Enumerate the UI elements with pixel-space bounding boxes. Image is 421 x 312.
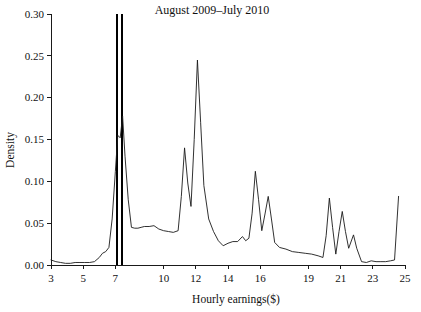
x-axis-tick-label: 23 — [367, 272, 379, 284]
y-axis-tick-label: 0.20 — [25, 91, 45, 103]
reference-lines — [117, 14, 122, 265]
chart-canvas: August 2009–July 2010 0.000.050.100.150.… — [0, 0, 421, 312]
chart-title: August 2009–July 2010 — [155, 3, 270, 17]
x-axis-tick-label: 19 — [303, 272, 315, 284]
y-axis-ticks — [47, 14, 51, 265]
x-axis-tick-label: 3 — [48, 272, 54, 284]
x-axis-tick-label: 21 — [335, 272, 346, 284]
y-axis-tick-label: 0.15 — [25, 133, 45, 145]
x-axis-tick-label: 16 — [255, 272, 267, 284]
x-axis-title: Hourly earnings($) — [192, 293, 280, 306]
density-curve — [51, 60, 399, 263]
x-axis-tick-label: 25 — [400, 272, 412, 284]
y-axis-tick-label: 0.05 — [25, 217, 45, 229]
y-axis-tick-label: 0.25 — [25, 50, 45, 62]
y-axis-title: Density — [4, 132, 17, 168]
y-axis-tick-labels: 0.000.050.100.150.200.250.30 — [25, 8, 45, 271]
x-axis-ticks — [51, 265, 405, 269]
x-axis-tick-label: 14 — [223, 272, 235, 284]
x-axis-tick-label: 10 — [158, 272, 170, 284]
x-axis-tick-label: 7 — [113, 272, 119, 284]
density-chart: August 2009–July 2010 0.000.050.100.150.… — [0, 0, 421, 312]
y-axis-tick-label: 0.30 — [25, 8, 45, 20]
y-axis-tick-label: 0.10 — [25, 175, 45, 187]
x-axis-tick-labels: 3571012141619212325 — [48, 272, 411, 284]
x-axis-tick-label: 5 — [80, 272, 86, 284]
x-axis-tick-label: 12 — [190, 272, 201, 284]
y-axis-tick-label: 0.00 — [25, 259, 45, 271]
